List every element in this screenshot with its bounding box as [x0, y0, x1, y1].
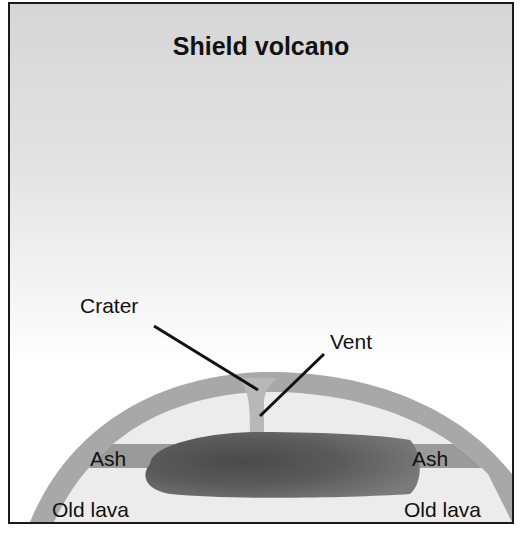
diagram-title: Shield volcano: [10, 32, 512, 61]
label-ash-left: Ash: [90, 447, 126, 471]
label-vent: Vent: [330, 330, 372, 354]
volcano-cross-section: [10, 4, 512, 522]
label-crater: Crater: [80, 294, 138, 318]
label-ash-right: Ash: [412, 447, 448, 471]
label-old-lava-left: Old lava: [52, 498, 129, 522]
magma-chamber: [145, 432, 419, 498]
diagram-frame: Shield volcano Crater Vent Ash Ash Old l…: [8, 2, 514, 524]
label-old-lava-right: Old lava: [404, 498, 481, 522]
